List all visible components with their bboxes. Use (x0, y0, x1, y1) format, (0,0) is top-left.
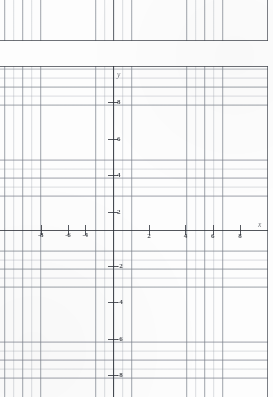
y-tick-label-minus-6: -6 (117, 335, 122, 342)
y-tick-label-2: 2 (117, 208, 120, 215)
y-axis-line (113, 66, 114, 397)
scanned-page: -8 -6 -4 2 4 6 8 8 6 4 2 -2 -4 -6 -8 y x (0, 0, 273, 397)
y-tick-label-minus-8: -8 (117, 372, 122, 379)
y-axis-label: y (117, 70, 120, 79)
y-tick-label-minus-4: -4 (117, 299, 122, 306)
x-tick-label-minus-8: -8 (38, 232, 43, 239)
x-tick-label-6: 6 (211, 233, 214, 240)
coordinate-plane: -8 -6 -4 2 4 6 8 8 6 4 2 -2 -4 -6 -8 y x (0, 66, 268, 397)
grid-lines-partial (0, 0, 268, 41)
y-tick-label-6: 6 (117, 135, 120, 142)
x-tick-label-8: 8 (238, 233, 241, 240)
x-tick-label-minus-6: -6 (65, 232, 70, 239)
plot-border-right (267, 66, 268, 397)
x-tick-label-2: 2 (147, 233, 150, 240)
x-tick-label-4: 4 (184, 233, 187, 240)
partial-vertical-axis (113, 0, 114, 41)
y-tick-label-minus-2: -2 (117, 263, 122, 270)
y-tick-label-8: 8 (117, 99, 120, 106)
partial-plot-border-right (267, 0, 268, 41)
x-tick-label-minus-4: -4 (82, 232, 87, 239)
partial-plot-border-bottom (0, 40, 268, 41)
y-tick-label-4: 4 (117, 172, 120, 179)
x-axis-label: x (258, 220, 261, 229)
plot-border-top (0, 66, 268, 67)
partial-coordinate-grid (0, 0, 268, 41)
